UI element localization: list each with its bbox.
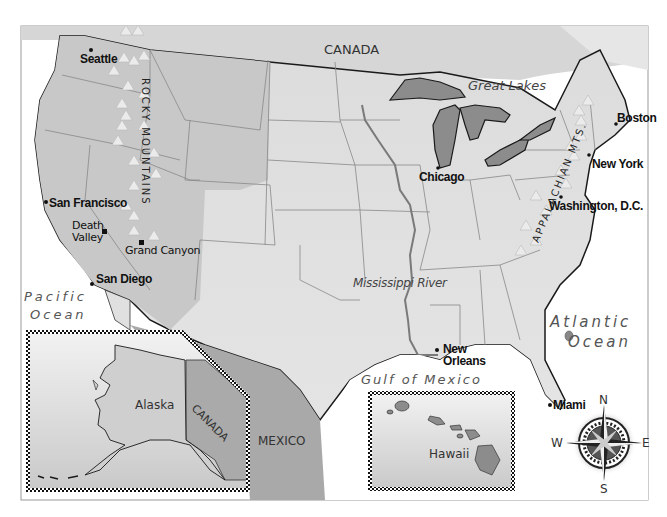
label-hawaii: Hawaii xyxy=(429,447,469,461)
label-canada: CANADA xyxy=(324,42,379,57)
label-death-valley: DeathValley xyxy=(72,220,104,244)
label-new-york: New York xyxy=(592,157,643,171)
label-seattle: Seattle xyxy=(80,52,117,66)
label-boston: Boston xyxy=(617,111,657,125)
label-san-francisco: San Francisco xyxy=(49,196,127,210)
label-pacific-ocean: PacificOcean xyxy=(24,288,87,324)
label-gulf-of-mexico: Gulf of Mexico xyxy=(361,372,482,387)
us-map xyxy=(0,0,667,517)
compass-e: E xyxy=(642,436,650,450)
label-washington: Washington, D.C. xyxy=(549,199,643,213)
compass-n: N xyxy=(599,393,608,407)
label-new-orleans: NewOrleans xyxy=(443,343,486,367)
label-mexico: MEXICO xyxy=(258,434,306,448)
hawaii-inset xyxy=(370,393,513,489)
label-grand-canyon: Grand Canyon xyxy=(125,245,200,257)
compass-w: W xyxy=(551,436,563,450)
compass-s: S xyxy=(600,482,608,496)
label-chicago: Chicago xyxy=(419,170,464,184)
label-alaska: Alaska xyxy=(135,398,174,412)
label-great-lakes: Great Lakes xyxy=(468,78,546,93)
label-miami: Miami xyxy=(553,398,586,412)
label-mississippi-river: Mississippi River xyxy=(353,276,447,290)
label-rocky-mountains: ROCKY MOUNTAINS xyxy=(140,78,151,206)
label-san-diego: San Diego xyxy=(96,272,152,286)
label-atlantic-ocean: AtlanticOcean xyxy=(550,312,631,352)
